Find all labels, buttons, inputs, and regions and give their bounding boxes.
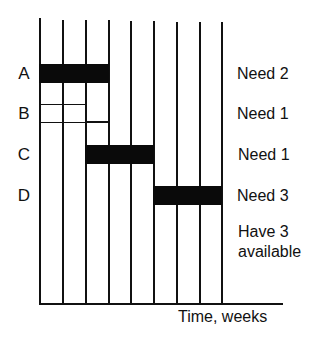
task-b-float-line [87, 121, 108, 123]
task-bar-d [153, 186, 222, 205]
have-line-2: available [238, 242, 301, 262]
have-line-1: Have 3 [238, 222, 289, 242]
task-bar-a [39, 64, 109, 83]
need-c: Need 1 [238, 145, 290, 165]
need-a: Need 2 [237, 64, 289, 84]
row-label-b: B [14, 104, 34, 124]
x-axis-label: Time, weeks [178, 307, 267, 327]
x-axis [39, 303, 283, 305]
need-d: Need 3 [237, 186, 289, 206]
row-label-d: D [14, 186, 34, 206]
resource-gantt-diagram: A B C D Need 2 Need 1 Need 1 Need 3 Have… [0, 0, 327, 340]
row-label-c: C [14, 145, 34, 165]
row-label-a: A [14, 64, 34, 84]
grid-line [39, 18, 41, 305]
task-bar-c [85, 145, 154, 164]
grid-line [176, 22, 178, 305]
task-bar-b [39, 104, 86, 123]
need-b: Need 1 [237, 104, 289, 124]
grid-line [221, 22, 223, 305]
grid-line [62, 20, 64, 305]
grid-line [199, 22, 201, 305]
